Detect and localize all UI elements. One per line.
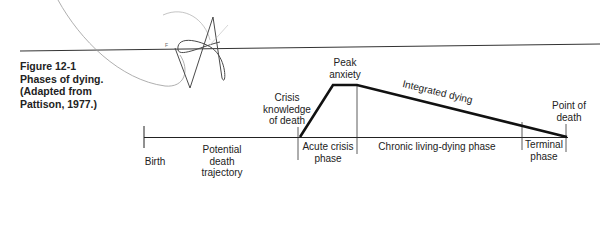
label-chronic-phase: Chronic living-dying phase bbox=[378, 141, 495, 153]
label-birth: Birth bbox=[145, 156, 166, 168]
figure-caption: Figure 12-1 Phases of dying. (Adapted fr… bbox=[20, 60, 103, 110]
label-potential-line3: trajectory bbox=[201, 167, 242, 179]
figure-number: Figure 12-1 bbox=[20, 60, 103, 73]
label-acute-line2: phase bbox=[302, 153, 353, 165]
figure-title: Phases of dying. bbox=[20, 73, 103, 86]
label-crisis-line2: knowledge bbox=[263, 104, 311, 116]
label-acute-line1: Acute crisis bbox=[302, 141, 353, 153]
label-birth-text: Birth bbox=[145, 156, 166, 168]
label-potential-trajectory: Potential death trajectory bbox=[201, 144, 242, 179]
label-terminal-phase: Terminal phase bbox=[525, 139, 563, 162]
figure-source-1: (Adapted from bbox=[20, 85, 103, 98]
label-crisis-line1: Crisis bbox=[263, 92, 311, 104]
svg-text:F: F bbox=[165, 42, 168, 48]
top-rule bbox=[20, 44, 600, 51]
label-peak-anxiety: Peak anxiety bbox=[329, 57, 361, 80]
label-crisis-knowledge: Crisis knowledge of death bbox=[263, 92, 311, 127]
label-chronic-text: Chronic living-dying phase bbox=[378, 141, 495, 153]
label-death-line2: death bbox=[552, 112, 586, 124]
label-terminal-line1: Terminal bbox=[525, 139, 563, 151]
label-potential-line2: death bbox=[201, 156, 242, 168]
label-peak-line2: anxiety bbox=[329, 69, 361, 81]
label-acute-crisis-phase: Acute crisis phase bbox=[302, 141, 353, 164]
figure-source-2: Pattison, 1977.) bbox=[20, 98, 103, 111]
label-death-line1: Point of bbox=[552, 100, 586, 112]
label-crisis-line3: of death bbox=[263, 115, 311, 127]
label-point-of-death: Point of death bbox=[552, 100, 586, 123]
label-terminal-line2: phase bbox=[525, 151, 563, 163]
label-peak-line1: Peak bbox=[329, 57, 361, 69]
label-potential-line1: Potential bbox=[201, 144, 242, 156]
